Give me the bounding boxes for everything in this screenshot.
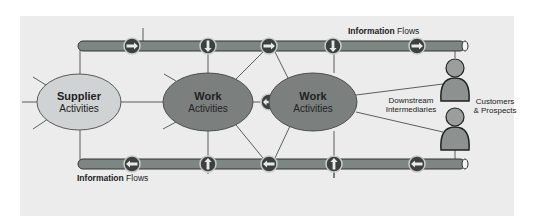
flow-right-icon bbox=[261, 38, 277, 54]
flow-right-icon bbox=[409, 38, 425, 54]
work2-title: Work bbox=[299, 90, 327, 102]
work1-title: Work bbox=[194, 90, 222, 102]
work1-subtitle: Activities bbox=[188, 103, 227, 114]
bottom-information-flows-label: Information Flows bbox=[77, 173, 148, 183]
work2-subtitle: Activities bbox=[293, 103, 332, 114]
customers-label-line2: & Prospects bbox=[473, 106, 516, 115]
work-activities-node-1: Work Activities bbox=[163, 73, 253, 131]
top-information-flows-label: Information Flows bbox=[348, 26, 419, 36]
flow-up-icon bbox=[326, 156, 342, 172]
supplier-subtitle: Activities bbox=[59, 103, 98, 114]
customers-label-line1: Customers bbox=[476, 97, 515, 106]
work-activities-node-2: Work Activities bbox=[269, 73, 357, 131]
supplier-activities-node: Supplier Activities bbox=[37, 74, 121, 130]
flow-right-icon bbox=[124, 38, 140, 54]
downstream-label-line2: Intermediaries bbox=[386, 105, 437, 114]
information-flow-diagram: Supplier Activities Work Activities Work… bbox=[0, 0, 540, 224]
flow-left-icon bbox=[409, 156, 425, 172]
flow-left-icon bbox=[124, 156, 140, 172]
flow-left-icon bbox=[261, 156, 277, 172]
flow-up-icon bbox=[200, 156, 216, 172]
flow-down-icon bbox=[325, 38, 341, 54]
downstream-label-line1: Downstream bbox=[389, 96, 434, 105]
flow-down-icon bbox=[200, 38, 216, 54]
supplier-title: Supplier bbox=[57, 90, 102, 102]
